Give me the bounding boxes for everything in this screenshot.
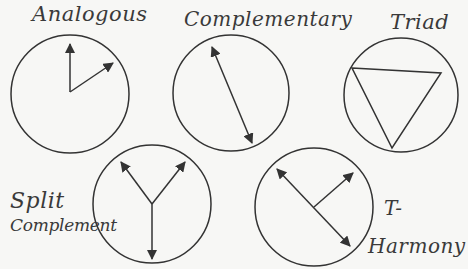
t-harmony-label-line1: T-	[384, 196, 403, 220]
arrow-upright-icon	[152, 162, 185, 204]
arrow-upleft-icon	[121, 162, 152, 204]
split-complement-label-line1: Split	[10, 188, 65, 213]
double-arrow-icon	[212, 47, 252, 143]
t-harmony-wheel	[255, 148, 373, 266]
triangle-icon	[352, 68, 441, 148]
triad-wheel	[344, 38, 458, 152]
split-complement-label-line2: Complement	[10, 215, 117, 235]
arrow-upright-icon	[314, 173, 353, 207]
analogous-label: Analogous	[32, 2, 147, 26]
complementary-label: Complementary	[184, 7, 352, 31]
double-arrow-icon	[277, 169, 350, 246]
analogous-wheel	[11, 35, 129, 153]
arrow-upright-icon	[70, 63, 113, 92]
split-complement-wheel	[93, 145, 211, 263]
complementary-wheel	[173, 35, 289, 151]
triad-label: Triad	[390, 10, 449, 34]
t-harmony-label-line2: Harmony	[368, 234, 466, 258]
